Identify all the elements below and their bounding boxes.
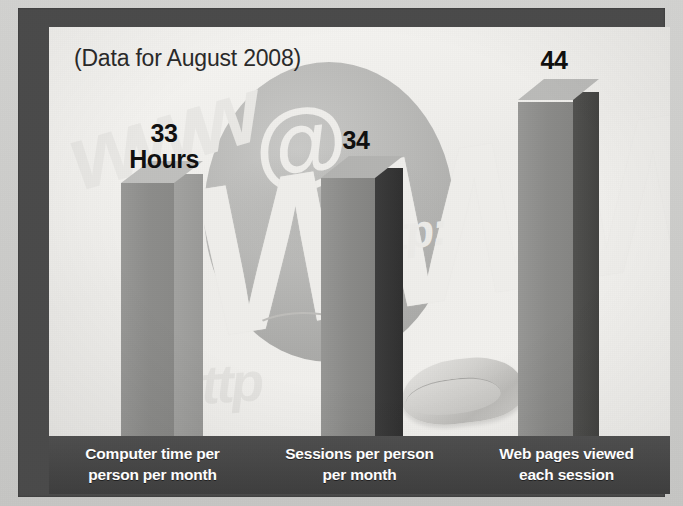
bar-value-label-2: 34 [311,127,401,153]
bar-sessions[interactable] [321,162,475,436]
bar-value-label-3: 44 [509,47,599,73]
bar-front-face [518,102,573,436]
category-line-1: Computer time per [85,445,219,462]
chart-canvas: www @ WWW ttp: http (Data for August 200… [49,27,670,494]
category-label-sessions: Sessions per person per month [256,436,463,494]
bar-side-face [573,92,599,436]
category-line-2: per month [285,465,434,486]
bar-top-face [321,156,403,178]
category-label-computer-time: Computer time per person per month [49,436,256,494]
bar-value-label-1: 33 Hours [109,120,219,172]
plot-area: www @ WWW ttp: http (Data for August 200… [49,27,670,436]
bar-web-pages[interactable] [518,85,670,436]
bar-value-3: 44 [541,46,568,74]
bar-front-face [321,178,375,436]
bar-unit-1: Hours [129,145,199,173]
category-line-1: Sessions per person [285,445,434,462]
category-line-2: person per month [85,465,219,486]
category-line-1: Web pages viewed [499,445,633,462]
chart-frame-border: www @ WWW ttp: http (Data for August 200… [18,8,665,497]
bar-side-face [375,168,403,436]
bar-side-face [174,174,203,436]
category-line-2: each session [499,465,633,486]
bar-value-1: 33 [151,119,178,147]
bar-computer-time[interactable] [121,167,275,436]
category-label-band: Computer time per person per month Sessi… [49,436,670,494]
category-label-web-pages: Web pages viewed each session [463,436,670,494]
page-title: (Data for August 2008) [74,45,301,72]
bar-value-2: 34 [343,126,370,154]
bar-front-face [121,183,174,436]
screenshot-root: www @ WWW ttp: http (Data for August 200… [0,0,683,506]
bar-top-face [518,79,599,100]
